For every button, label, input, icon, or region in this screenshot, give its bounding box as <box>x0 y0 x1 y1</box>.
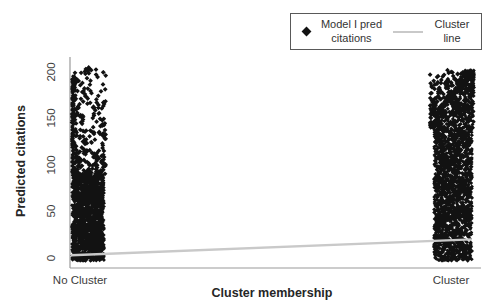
legend-label-model-pred-line2: citations <box>331 32 371 45</box>
scatter-points-cluster <box>428 68 476 263</box>
y-tick-label-150: 150 <box>45 108 57 127</box>
x-tick-label-cluster: Cluster <box>433 274 469 286</box>
y-tick-label-100: 100 <box>45 155 57 174</box>
figure: Predicted citations 0 50 100 150 200 No … <box>0 0 496 308</box>
y-tick-label-50: 50 <box>45 205 57 218</box>
legend-label-cluster-line-line2: line <box>443 32 460 45</box>
y-tick-label-0: 0 <box>45 255 57 261</box>
legend-label-cluster-line: Cluster line <box>435 18 470 44</box>
legend-label-model-pred: Model I pred citations <box>321 18 382 44</box>
cluster-trend-line <box>71 239 472 255</box>
x-axis-title: Cluster membership <box>212 286 333 300</box>
diamond-marker-icon <box>301 27 311 37</box>
x-tick-label-no-cluster: No Cluster <box>53 274 107 286</box>
legend-line-sample-icon <box>393 31 423 33</box>
legend-label-model-pred-line1: Model I pred <box>321 18 382 31</box>
y-axis-title: Predicted citations <box>14 105 28 217</box>
y-tick-label-200: 200 <box>45 62 57 81</box>
legend: Model I pred citations Cluster line <box>290 13 482 50</box>
legend-label-cluster-line-line1: Cluster <box>435 18 470 31</box>
scatter-points-no-cluster <box>70 65 108 263</box>
